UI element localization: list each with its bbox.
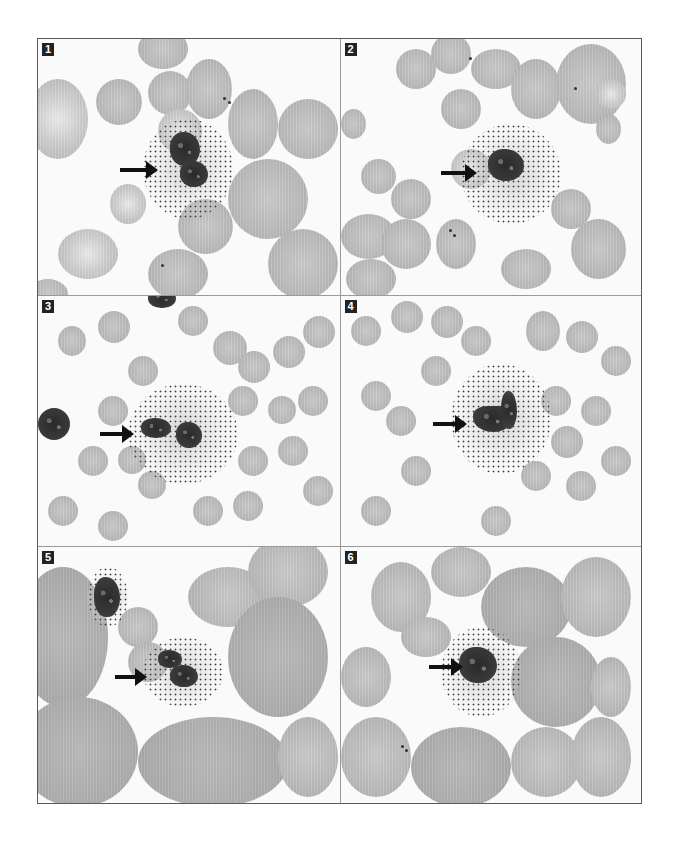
- red-blood-cell: [461, 326, 491, 356]
- red-blood-cell: [278, 436, 308, 466]
- red-blood-cell: [526, 311, 560, 351]
- red-blood-cell: [228, 597, 328, 717]
- red-blood-cell: [436, 219, 476, 269]
- red-blood-cell: [273, 336, 305, 368]
- red-blood-cell: [138, 717, 288, 803]
- red-blood-cell: [58, 229, 118, 279]
- red-blood-cell: [96, 79, 142, 125]
- arrow-icon: [120, 168, 148, 172]
- arrow-icon: [441, 171, 467, 175]
- granulocyte-nucleus: [501, 391, 517, 429]
- red-blood-cell: [511, 59, 561, 119]
- red-blood-cell: [481, 506, 511, 536]
- red-blood-cell: [386, 406, 416, 436]
- red-blood-cell: [78, 446, 108, 476]
- red-blood-cell: [401, 617, 451, 657]
- panel-4: 4: [340, 295, 642, 546]
- red-blood-cell: [58, 326, 86, 356]
- arrow-icon: [115, 675, 137, 679]
- panel-grid: 1 2: [38, 39, 641, 803]
- platelet: [405, 749, 408, 752]
- red-blood-cell: [278, 717, 338, 797]
- panel-label: 2: [345, 43, 357, 56]
- red-blood-cell: [110, 184, 146, 224]
- red-blood-cell: [396, 49, 436, 89]
- platelet: [449, 229, 452, 232]
- red-blood-cell: [228, 159, 308, 239]
- red-blood-cell: [561, 557, 631, 637]
- panel-3: 3: [38, 295, 340, 546]
- panel-label: 3: [42, 300, 54, 313]
- platelet: [453, 234, 456, 237]
- leukocyte-nucleus: [148, 295, 176, 308]
- platelet: [161, 264, 164, 267]
- red-blood-cell: [178, 306, 208, 336]
- red-blood-cell: [303, 316, 335, 348]
- red-blood-cell: [238, 446, 268, 476]
- red-blood-cell: [361, 496, 391, 526]
- red-blood-cell: [581, 396, 611, 426]
- red-blood-cell: [596, 79, 626, 109]
- red-blood-cell: [511, 727, 581, 797]
- red-blood-cell: [138, 39, 188, 69]
- red-blood-cell: [268, 396, 296, 424]
- red-blood-cell: [551, 426, 583, 458]
- red-blood-cell: [341, 647, 391, 707]
- red-blood-cell: [501, 249, 551, 289]
- red-blood-cell: [591, 657, 631, 717]
- red-blood-cell: [421, 356, 451, 386]
- granulocyte-nucleus: [488, 149, 524, 181]
- red-blood-cell: [298, 386, 328, 416]
- panel-label: 4: [345, 300, 357, 313]
- red-blood-cell: [38, 79, 88, 159]
- platelet: [469, 57, 472, 60]
- panel-label: 6: [345, 551, 357, 564]
- red-blood-cell: [278, 99, 338, 159]
- platelet: [223, 97, 226, 100]
- red-blood-cell: [511, 637, 601, 727]
- red-blood-cell: [98, 311, 130, 343]
- granulocyte-nucleus: [180, 161, 208, 187]
- red-blood-cell: [351, 316, 381, 346]
- red-blood-cell: [401, 456, 431, 486]
- granulocyte-nucleus: [176, 422, 202, 448]
- granulocyte-nucleus: [141, 418, 171, 438]
- red-blood-cell: [361, 381, 391, 411]
- red-blood-cell: [431, 306, 463, 338]
- leukocyte-nucleus: [94, 577, 120, 617]
- red-blood-cell: [148, 249, 208, 295]
- red-blood-cell: [303, 476, 333, 506]
- red-blood-cell: [38, 279, 68, 295]
- arrow-icon: [100, 432, 124, 436]
- platelet: [401, 745, 404, 748]
- platelet: [574, 87, 577, 90]
- red-blood-cell: [381, 219, 431, 269]
- red-blood-cell: [48, 496, 78, 526]
- red-blood-cell: [38, 697, 138, 803]
- red-blood-cell: [128, 356, 158, 386]
- red-blood-cell: [341, 109, 366, 139]
- red-blood-cell: [566, 471, 596, 501]
- arrow-icon: [429, 665, 453, 669]
- red-blood-cell: [228, 89, 278, 159]
- red-blood-cell: [601, 346, 631, 376]
- red-blood-cell: [341, 717, 411, 797]
- panel-6: 6: [340, 546, 642, 803]
- red-blood-cell: [391, 179, 431, 219]
- leukocyte-nucleus: [38, 408, 70, 440]
- red-blood-cell: [193, 496, 223, 526]
- red-blood-cell: [431, 547, 491, 597]
- red-blood-cell: [441, 89, 481, 129]
- red-blood-cell: [238, 351, 270, 383]
- red-blood-cell: [411, 727, 511, 803]
- red-blood-cell: [601, 446, 631, 476]
- red-blood-cell: [571, 219, 626, 279]
- panel-5: 5: [38, 546, 340, 803]
- panel-label: 5: [42, 551, 54, 564]
- arrow-icon: [433, 422, 457, 426]
- granulocyte-nucleus: [170, 665, 198, 687]
- red-blood-cell: [233, 491, 263, 521]
- red-blood-cell: [186, 59, 232, 119]
- panel-1: 1: [38, 39, 340, 295]
- figure-grid: 1 2: [37, 38, 642, 804]
